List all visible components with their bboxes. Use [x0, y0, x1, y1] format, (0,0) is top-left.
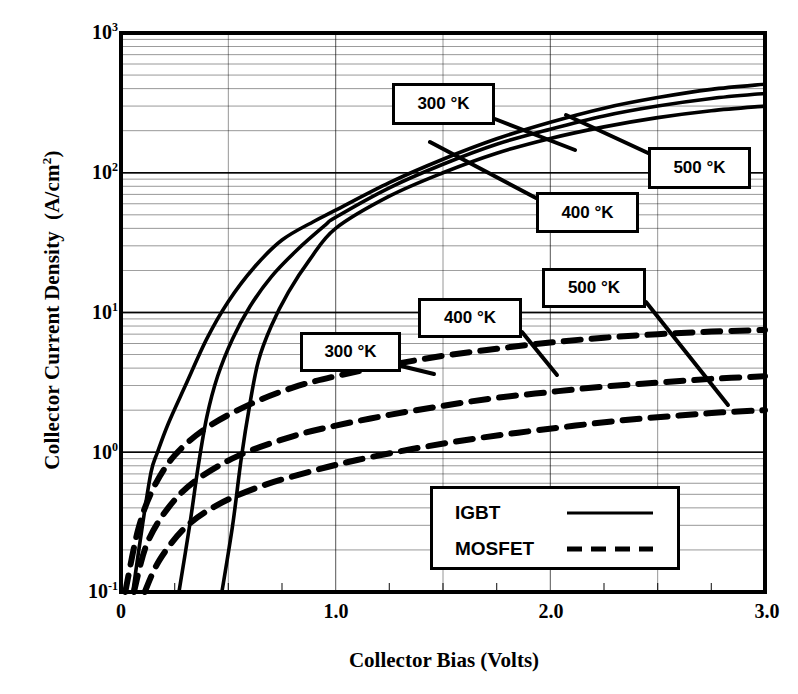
callout-igbt-500: 500 °K: [648, 147, 751, 189]
callout-mosfet-500: 500 °K: [542, 268, 646, 308]
callout-mosfet-300: 300 °K: [300, 332, 401, 372]
legend-swatch-solid: [565, 506, 657, 520]
chart-figure: Collector Current Density (A/cm2) Collec…: [0, 0, 798, 694]
callout-label: 500 °K: [568, 278, 620, 298]
legend-swatch-dashed: [565, 542, 657, 556]
legend-label-igbt: IGBT: [455, 502, 565, 524]
callout-label: 300 °K: [417, 94, 469, 114]
callout-mosfet-400: 400 °K: [418, 298, 522, 338]
legend-label-mosfet: MOSFET: [455, 538, 565, 560]
callout-igbt-400: 400 °K: [536, 192, 639, 233]
callout-label: 500 °K: [673, 158, 725, 178]
callout-label: 300 °K: [324, 342, 376, 362]
callout-label: 400 °K: [444, 308, 496, 328]
legend: IGBT MOSFET: [430, 486, 680, 570]
callout-igbt-300: 300 °K: [392, 83, 495, 125]
legend-entry-mosfet: MOSFET: [433, 533, 677, 565]
legend-entry-igbt: IGBT: [433, 497, 677, 529]
callout-label: 400 °K: [561, 203, 613, 223]
